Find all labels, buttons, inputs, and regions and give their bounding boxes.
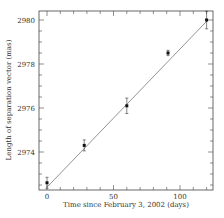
y-tick-label: 2978 [17,61,35,69]
y-tick-label: 2980 [17,17,35,25]
tick-labels: 0501002974297629782980 [17,17,187,202]
data-points [46,11,209,188]
y-tick-label: 2976 [17,105,35,113]
data-point [205,11,208,29]
x-axis-label: Time since February 3, 2002 (days) [63,201,189,209]
plot-frame [39,11,213,190]
data-point [125,98,128,113]
y-axis-label: Length of separation vector (mas) [5,39,13,160]
fit-line [47,20,208,187]
y-tick-label: 2974 [17,149,35,157]
x-tick-label: 0 [45,193,49,201]
data-point [167,50,170,55]
x-tick-label: 50 [109,193,118,201]
x-tick-label: 100 [173,193,186,201]
axis-ticks [39,11,213,190]
scatter-plot: 0501002974297629782980 Time since Februa… [0,0,224,218]
